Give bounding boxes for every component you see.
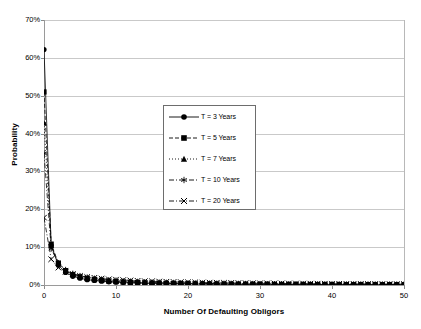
legend-label: T = 20 Years	[201, 197, 240, 205]
legend-marker-triangle-icon	[167, 152, 201, 166]
chart-container: 0%10%20%30%40%50%60%70% 01020304050 T = …	[0, 0, 421, 329]
legend-item-5[interactable]: T = 20 Years	[164, 190, 255, 211]
x-axis-tick-label: 20	[173, 291, 203, 300]
x-axis-title: Number Of Defaulting Obligors	[44, 307, 404, 316]
x-axis-tick-label: 0	[29, 291, 59, 300]
legend-item-3[interactable]: T = 7 Years	[164, 148, 255, 169]
x-axis-tick-label: 40	[317, 291, 347, 300]
y-axis-tick-label: 60%	[4, 54, 40, 62]
legend-label: T = 3 Years	[201, 113, 236, 121]
x-axis-tick-label: 50	[389, 291, 419, 300]
legend-marker-asterisk-icon	[167, 173, 201, 187]
legend-marker-x-icon	[167, 194, 201, 208]
y-axis-tick-label: 10%	[4, 243, 40, 251]
legend-label: T = 5 Years	[201, 134, 236, 142]
legend-item-2[interactable]: T = 5 Years	[164, 127, 255, 148]
legend-item-4[interactable]: T = 10 Years	[164, 169, 255, 190]
y-axis-title: Probability	[10, 105, 19, 185]
plot-right-border	[404, 20, 405, 285]
y-axis-tick-label: 70%	[4, 16, 40, 24]
x-axis-tick-label: 30	[245, 291, 275, 300]
y-axis-tick-label: 20%	[4, 205, 40, 213]
y-axis-tick-label: 50%	[4, 92, 40, 100]
series-5	[44, 215, 404, 285]
x-axis-tick-label: 10	[101, 291, 131, 300]
legend-marker-circle-icon	[167, 110, 201, 124]
legend-label: T = 7 Years	[201, 155, 236, 163]
legend-label: T = 10 Years	[201, 176, 240, 184]
legend-marker-square-icon	[167, 131, 201, 145]
x-axis-line	[44, 285, 404, 286]
y-axis-tick-label: 0%	[4, 281, 40, 289]
x-axis-tick-mark	[404, 285, 405, 289]
legend-item-1[interactable]: T = 3 Years	[164, 106, 255, 127]
chart-legend: T = 3 YearsT = 5 YearsT = 7 YearsT = 10 …	[163, 105, 256, 210]
